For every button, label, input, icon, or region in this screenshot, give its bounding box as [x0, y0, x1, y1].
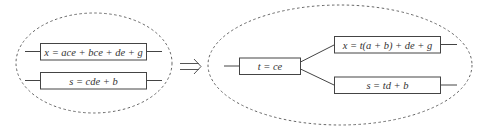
- implies-arrow-icon: [180, 59, 201, 74]
- x-expr-after: x = t(a + b) + de + g: [342, 40, 433, 52]
- factorization-diagram: x = ace + bce + de + g s = cde + b t = c…: [0, 0, 489, 133]
- after-group: t = ce x = t(a + b) + de + g s = td + b: [208, 5, 472, 125]
- t-to-s-wire: [301, 69, 335, 85]
- before-ellipse: [16, 13, 172, 113]
- t-to-x-wire: [301, 45, 335, 62]
- before-group: x = ace + bce + de + g s = cde + b: [16, 13, 172, 113]
- s-expr-after: s = td + b: [366, 80, 408, 91]
- s-expr-before: s = cde + b: [69, 76, 118, 87]
- t-expr: t = ce: [258, 61, 283, 72]
- x-expr-before: x = ace + bce + de + g: [43, 47, 142, 58]
